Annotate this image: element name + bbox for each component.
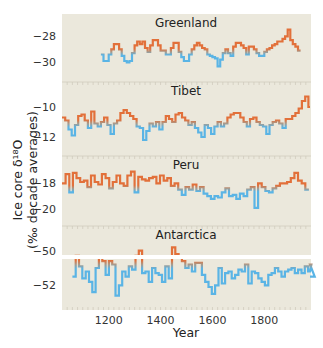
- x-tick-label: 1400: [147, 314, 175, 327]
- panel-title: Tibet: [170, 84, 201, 98]
- panel-title: Greenland: [155, 16, 217, 30]
- y-axis-subtitle: (‰ decade averages): [25, 111, 40, 249]
- x-tick-label: 1600: [198, 314, 226, 327]
- ice-core-chart: Greenland−28−30Tibet−10−12Peru−18−20Anta…: [0, 0, 323, 348]
- y-axis-title-group: Ice core δ¹⁸O (‰ decade averages): [10, 111, 40, 249]
- x-axis-title: Year: [172, 325, 200, 340]
- y-tick-label: −28: [33, 30, 56, 43]
- x-tick-label: 1200: [95, 314, 123, 327]
- antarctica-white-band: [58, 255, 315, 259]
- y-tick-label: −30: [33, 56, 56, 69]
- x-tick-label: 1800: [250, 314, 278, 327]
- y-axis-title: Ice core δ¹⁸O: [10, 139, 25, 220]
- y-tick-label: −52: [33, 279, 56, 292]
- panel-title: Peru: [173, 158, 200, 172]
- panel-title: Antarctica: [155, 228, 216, 242]
